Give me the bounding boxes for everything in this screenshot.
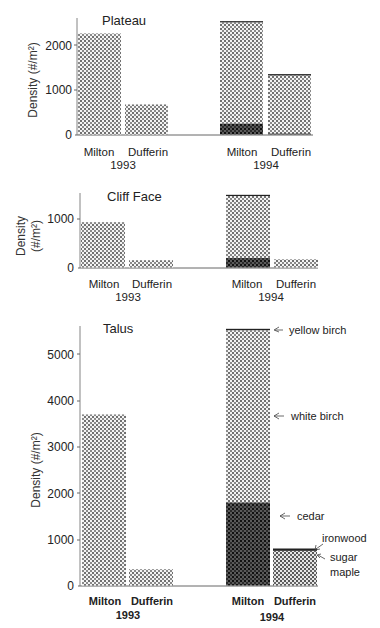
bar-segment-white-birch xyxy=(125,104,168,134)
bar-segment-yellow-birch xyxy=(226,329,270,330)
annotation-sugar-maple: sugar maple xyxy=(317,551,360,578)
bar-segment-white-birch xyxy=(268,75,311,133)
figure: Plateau Density (#/m²) 0 1000 2000 Milto… xyxy=(0,0,380,628)
bar-segment-white-birch xyxy=(129,569,173,585)
bar-group xyxy=(81,195,318,268)
y-axis-label: Density (#/m²) xyxy=(29,432,43,507)
panel-cliff-face: Cliff Face Density (#/m²) 0 1000 Milton … xyxy=(14,189,318,303)
bar-segment-white-birch xyxy=(82,414,126,585)
x-label-dufferin-1993: Dufferin xyxy=(131,595,173,607)
panel-title: Talus xyxy=(103,321,134,336)
arrow-head-icon xyxy=(274,327,279,332)
bar-segment-cedar xyxy=(226,258,270,268)
annotation-label: cedar xyxy=(297,510,325,522)
y-axis-label-line1: Density xyxy=(14,216,28,256)
panel-title: Plateau xyxy=(102,13,146,28)
bar-segment-cedar xyxy=(220,123,263,134)
group-label-1993: 1993 xyxy=(116,609,140,621)
bar-segment-yellow-birch xyxy=(226,195,270,196)
panel-plateau: Plateau Density (#/m²) 0 1000 2000 Milto… xyxy=(26,13,313,171)
y-tick-label: 4000 xyxy=(47,394,74,408)
y-tick-label: 0 xyxy=(67,579,74,593)
y-tick-label: 2000 xyxy=(47,487,74,501)
stacked-bar-charts: Plateau Density (#/m²) 0 1000 2000 Milto… xyxy=(0,0,380,628)
annotation-white-birch: white birch xyxy=(274,410,344,422)
x-label-dufferin-1993: Dufferin xyxy=(128,146,168,158)
panel-title: Cliff Face xyxy=(107,189,162,204)
annotation-ironwood: ironwood xyxy=(315,532,367,550)
y-tick-label: 2000 xyxy=(45,39,72,53)
bar-segment-white-birch xyxy=(220,22,263,123)
annotation-label-line2: maple xyxy=(330,566,360,578)
bar-segment-cedar xyxy=(268,133,311,134)
bar-segment-white-birch xyxy=(226,330,270,502)
y-tick-label: 0 xyxy=(65,128,72,142)
annotation-yellow-birch: yellow birch xyxy=(274,324,346,336)
y-axis-label: Density (#/m²) xyxy=(26,42,40,117)
group-label-1994: 1994 xyxy=(260,611,285,623)
x-label-milton-1994: Milton xyxy=(227,146,258,158)
annotation-label: white birch xyxy=(290,410,344,422)
arrow-icon xyxy=(316,544,323,549)
annotation-label: ironwood xyxy=(322,532,367,544)
bar-segment-yellow-birch xyxy=(220,21,263,22)
x-label-dufferin-1994: Dufferin xyxy=(271,146,311,158)
group-label-1993: 1993 xyxy=(110,159,136,171)
panel-talus: Talus Density (#/m²) 0 1000 2000 3000 40… xyxy=(29,321,367,623)
bar-segment-white-birch xyxy=(78,33,121,134)
bar-group xyxy=(78,21,311,134)
x-label-dufferin-1993: Dufferin xyxy=(132,278,172,290)
group-label-1993: 1993 xyxy=(115,291,141,303)
y-tick-label: 0 xyxy=(67,261,74,275)
x-label-milton-1993: Milton xyxy=(84,146,115,158)
annotation-label: yellow birch xyxy=(289,324,346,336)
bar-segment-sugar-maple xyxy=(273,551,317,586)
bar-segment-cedar xyxy=(226,502,270,585)
y-tick-label: 3000 xyxy=(47,440,74,454)
y-tick-label: 5000 xyxy=(47,348,74,362)
y-axis-label-line2: (#/m²) xyxy=(29,220,43,252)
annotation-label-line1: sugar xyxy=(330,551,358,563)
x-label-dufferin-1994: Dufferin xyxy=(274,595,316,607)
y-tick-label: 1000 xyxy=(47,533,74,547)
bar-segment-white-birch xyxy=(129,260,173,267)
group-label-1994: 1994 xyxy=(253,159,279,171)
y-tick-label: 1000 xyxy=(45,83,72,97)
bar-group xyxy=(82,329,317,586)
bar-segment-white-birch xyxy=(274,259,318,267)
annotation-cedar: cedar xyxy=(280,510,325,522)
x-label-dufferin-1994: Dufferin xyxy=(276,278,316,290)
bar-segment-white-birch xyxy=(81,222,125,267)
bar-segment-white-birch xyxy=(226,196,270,258)
bar-segment-ironwood xyxy=(268,74,311,75)
y-tick-label: 1000 xyxy=(47,212,74,226)
x-label-milton-1994: Milton xyxy=(232,278,263,290)
x-label-milton-1993: Milton xyxy=(89,278,120,290)
x-label-milton-1993: Milton xyxy=(89,595,122,607)
x-label-milton-1994: Milton xyxy=(232,595,265,607)
group-label-1994: 1994 xyxy=(258,291,284,303)
bar-segment-ironwood xyxy=(273,549,317,551)
